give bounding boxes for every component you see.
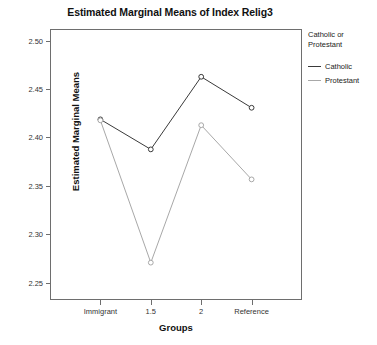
y-tick-label: 2.25 xyxy=(28,278,43,289)
y-tick-mark xyxy=(46,137,51,138)
x-tick-label: Reference xyxy=(217,307,287,316)
y-tick-mark xyxy=(46,41,51,42)
legend-item-label: Protestant xyxy=(325,76,359,85)
y-tick: 2.45 xyxy=(5,84,51,95)
x-axis-title: Groups xyxy=(50,322,302,333)
y-tick-label: 2.50 xyxy=(28,36,43,47)
y-tick-label: 2.40 xyxy=(28,132,43,143)
x-tick-mark xyxy=(100,300,101,305)
y-tick-mark xyxy=(46,89,51,90)
x-tick-mark xyxy=(252,300,253,305)
legend-line-icon xyxy=(308,66,321,67)
y-tick: 2.40 xyxy=(5,132,51,143)
legend: Catholic or Protestant CatholicProtestan… xyxy=(308,30,376,88)
y-tick-label: 2.30 xyxy=(28,229,43,240)
x-tick-mark xyxy=(151,300,152,305)
y-tick-mark xyxy=(46,283,51,284)
y-tick-label: 2.45 xyxy=(28,84,43,95)
y-tick: 2.25 xyxy=(5,278,51,289)
y-tick: 2.50 xyxy=(5,36,51,47)
y-tick-label: 2.35 xyxy=(28,181,43,192)
x-tick-mark xyxy=(201,300,202,305)
legend-title: Catholic or Protestant xyxy=(308,30,374,50)
y-tick: 2.35 xyxy=(5,181,51,192)
legend-item-protestant[interactable]: Protestant xyxy=(308,74,376,86)
legend-item-label: Catholic xyxy=(325,62,352,71)
y-tick-mark xyxy=(46,234,51,235)
legend-line-icon xyxy=(308,80,321,81)
y-tick-mark xyxy=(46,186,51,187)
legend-title-line-2: Protestant xyxy=(308,40,374,50)
y-axis-title: Estimated Marginal Means xyxy=(70,52,81,212)
legend-item-catholic[interactable]: Catholic xyxy=(308,60,376,72)
legend-title-line-1: Catholic or xyxy=(308,30,374,40)
plot-area: Estimated Marginal Means 2.252.302.352.4… xyxy=(50,29,302,300)
chart-container: Estimated Marginal Means of Index Relig3… xyxy=(0,0,377,345)
legend-items: CatholicProtestant xyxy=(308,60,376,86)
y-tick: 2.30 xyxy=(5,229,51,240)
chart-title: Estimated Marginal Means of Index Relig3 xyxy=(40,6,300,18)
